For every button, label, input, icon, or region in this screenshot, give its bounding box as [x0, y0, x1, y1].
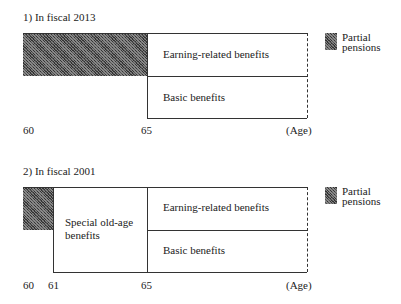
- legend-swatch: [325, 187, 337, 204]
- mid-divider: [147, 76, 307, 77]
- age-65-line: [147, 187, 148, 273]
- basic-benefits-label: Basic benefits: [163, 91, 225, 104]
- open-end-dashed-line: [307, 33, 308, 118]
- panel-title: 2) In fiscal 2001: [23, 165, 95, 177]
- age-axis-unit: (Age): [286, 124, 312, 136]
- bottom-border: [147, 118, 307, 119]
- tick-65: 65: [141, 124, 152, 136]
- partial-pensions-block: [23, 187, 53, 230]
- tick-60: 60: [23, 279, 34, 291]
- basic-benefits-label: Basic benefits: [163, 244, 225, 257]
- tick-65: 65: [141, 279, 152, 291]
- legend-label-line2: pensions: [342, 42, 381, 53]
- tick-61: 61: [48, 279, 59, 291]
- mid-divider: [147, 230, 307, 231]
- top-border: [23, 187, 307, 188]
- legend-swatch: [325, 33, 337, 50]
- bottom-border: [53, 272, 307, 273]
- earning-related-label: Earning-related benefits: [163, 48, 269, 61]
- age-61-line: [53, 187, 54, 273]
- special-old-age-label-line2: benefits: [65, 229, 100, 242]
- top-border: [23, 33, 307, 34]
- special-old-age-label-line1: Special old-age: [65, 216, 133, 229]
- open-end-dashed-line: [307, 187, 308, 272]
- legend-label-line2: pensions: [342, 196, 381, 207]
- earning-related-label: Earning-related benefits: [163, 201, 269, 214]
- tick-60: 60: [23, 124, 34, 136]
- age-axis-unit: (Age): [286, 279, 312, 291]
- partial-pensions-block: [23, 33, 147, 76]
- age-65-line: [147, 33, 148, 119]
- panel-title: 1) In fiscal 2013: [23, 11, 95, 23]
